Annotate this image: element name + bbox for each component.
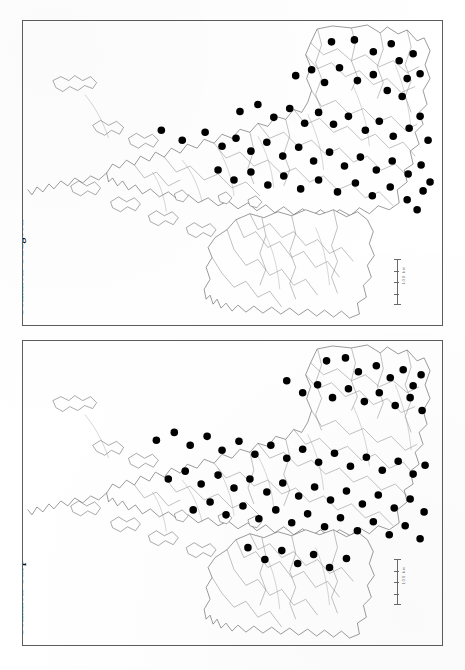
scale-bar-tick: [394, 582, 399, 583]
occurrence-dot: [270, 114, 278, 122]
occurrence-dot: [283, 454, 291, 462]
occurrence-dot: [417, 371, 425, 379]
panel-title-common-carp: Common Carp: [22, 559, 25, 637]
figure-page: Common Gudgeon 100 km: [0, 0, 465, 670]
occurrence-dot: [255, 515, 263, 523]
occurrence-dot: [299, 446, 307, 454]
occurrence-dot: [323, 357, 331, 365]
occurrence-dot: [347, 462, 355, 470]
occurrence-dot: [405, 125, 413, 133]
occurrence-dot: [370, 518, 378, 526]
occurrence-dot: [370, 71, 378, 79]
coastline-group: [28, 25, 430, 318]
panel-title-common-gudgeon: Common Gudgeon: [22, 219, 25, 317]
occurrence-dot: [254, 101, 262, 109]
occurrence-dot: [406, 495, 414, 503]
map-area-top: [23, 21, 442, 325]
occurrence-dot: [321, 523, 329, 531]
occurrence-dot: [376, 118, 384, 126]
occurrence-dot: [345, 113, 353, 121]
occurrence-dot: [286, 105, 294, 113]
occurrence-dot: [395, 57, 403, 65]
occurrence-dot: [343, 487, 351, 495]
japan-map-svg-top: [23, 21, 442, 325]
map-panel-common-gudgeon: Common Gudgeon 100 km: [22, 20, 443, 326]
occurrence-dot: [419, 187, 427, 195]
occurrence-dot: [404, 170, 412, 178]
occurrence-dot: [389, 132, 397, 140]
occurrence-dot: [244, 544, 252, 552]
occurrence-dot: [214, 166, 222, 174]
occurrence-dot: [409, 50, 417, 58]
occurrence-dot: [413, 206, 421, 214]
occurrence-dot: [283, 377, 291, 385]
occurrence-dot: [170, 429, 178, 437]
occurrence-dot: [352, 179, 360, 187]
occurrence-dot: [288, 519, 296, 527]
occurrence-dot: [326, 564, 334, 572]
occurrence-dot: [401, 522, 409, 530]
occurrence-dot: [310, 157, 318, 165]
occurrence-dot: [178, 136, 186, 144]
occurrence-dot: [263, 138, 271, 146]
occurrence-dot: [373, 362, 381, 370]
occurrence-dot: [186, 442, 194, 450]
occurrence-dot: [292, 72, 300, 80]
occurrence-dot: [345, 385, 353, 393]
occurrence-dot: [294, 560, 302, 568]
occurrence-dot: [342, 354, 350, 362]
occurrence-dot: [279, 152, 287, 160]
occurrence-dot: [230, 176, 238, 184]
scale-bar-tick: [394, 271, 399, 272]
occurrence-dot: [426, 178, 434, 186]
occurrence-dot: [239, 502, 247, 510]
coastline-group: [28, 345, 430, 638]
occurrence-dot: [263, 488, 271, 496]
occurrence-dot: [201, 128, 209, 136]
occurrence-dot: [416, 113, 424, 121]
occurrence-dot: [181, 467, 189, 475]
map-area-bottom: [23, 341, 442, 645]
occurrence-dot: [279, 479, 287, 487]
occurrence-dot: [189, 506, 197, 514]
occurrence-dot: [328, 38, 336, 46]
scale-bar-tick: [394, 571, 399, 572]
occurrence-dot: [321, 79, 329, 87]
occurrence-dot: [299, 389, 307, 397]
occurrence-dot: [165, 475, 173, 483]
occurrence-dot: [359, 500, 367, 508]
occurrence-dot: [369, 192, 377, 200]
occurrence-dot: [354, 527, 362, 535]
occurrence-dot: [308, 66, 316, 74]
occurrence-dot: [197, 480, 205, 488]
occurrence-dot: [403, 75, 411, 83]
occurrence-dot: [398, 93, 406, 101]
occurrence-dot: [386, 374, 394, 382]
occurrence-dot: [421, 461, 429, 469]
occurrence-dot: [362, 127, 370, 135]
occurrence-dot: [222, 511, 230, 519]
occurrence-dot: [329, 394, 337, 402]
occurrence-dot: [280, 172, 288, 180]
occurrence-dot: [330, 121, 338, 129]
scale-bar-cap-top: [394, 259, 401, 260]
occurrence-dot: [337, 514, 345, 522]
occurrence-dot: [272, 506, 280, 514]
occurrence-dot: [394, 457, 402, 465]
occurrence-dot: [267, 442, 275, 450]
occurrence-dot: [331, 449, 339, 457]
japan-map-svg-bottom: [23, 341, 442, 645]
occurrence-dot: [354, 77, 362, 85]
occurrence-dot: [214, 471, 222, 479]
occurrence-dot: [355, 368, 363, 376]
occurrence-dot: [314, 381, 322, 389]
occurrence-dot: [236, 108, 244, 116]
occurrence-dot: [343, 555, 351, 563]
scale-bar-tick: [394, 294, 399, 295]
occurrence-dot: [218, 142, 226, 150]
scale-bar-tick: [394, 594, 399, 595]
occurrence-dot: [246, 475, 254, 483]
occurrence-dot: [424, 136, 432, 144]
occurrence-dot: [251, 450, 259, 458]
occurrence-dot: [261, 556, 269, 564]
